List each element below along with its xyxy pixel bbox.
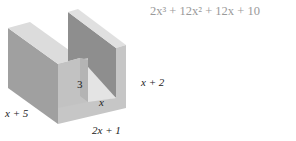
- polynomial-expression: 2x³ + 12x² + 12x + 10: [150, 4, 260, 19]
- label-height: 3: [77, 78, 83, 90]
- u-shaped-block-diagram: [0, 0, 296, 141]
- label-wall-height: x + 2: [141, 76, 164, 88]
- label-depth: x + 5: [5, 107, 28, 119]
- label-slot-width: x: [99, 96, 104, 108]
- label-slot-width-text: x: [99, 96, 104, 108]
- label-width: 2x + 1: [92, 124, 121, 136]
